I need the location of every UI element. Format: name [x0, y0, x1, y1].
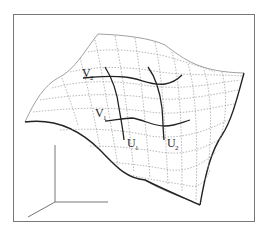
curve-u2	[148, 67, 164, 140]
axis-depth	[28, 202, 55, 217]
surface-patch	[25, 34, 244, 205]
edge-bottom-left	[25, 121, 200, 205]
iso-grid	[33, 36, 242, 200]
curve-v2	[83, 75, 182, 84]
svg-text:1: 1	[103, 114, 107, 122]
svg-text:2: 2	[90, 74, 94, 82]
svg-text:2: 2	[175, 144, 179, 152]
curve-v1	[105, 118, 190, 126]
surface-diagram: V 2 V 1 U 1 U 2	[0, 0, 268, 235]
edge-top	[98, 34, 244, 73]
curve-u1	[105, 67, 124, 140]
coordinate-axes	[28, 145, 108, 217]
label-u2: U 2	[167, 136, 179, 152]
svg-text:1: 1	[135, 144, 139, 152]
edge-right	[200, 73, 244, 205]
label-u1: U 1	[127, 136, 139, 152]
label-v2: V 2	[82, 66, 94, 82]
